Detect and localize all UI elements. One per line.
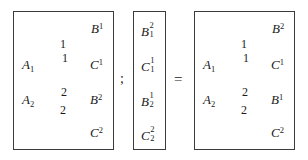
symbol-entry-4: C22 bbox=[141, 129, 150, 142]
node-c2-right-base: C bbox=[271, 125, 280, 140]
figure-canvas: A1 B1 C1 A2 B2 C2 1 1 2 2 ; B21 C11 B12 … bbox=[0, 0, 308, 160]
edge-label-a1-c1-left: 1 bbox=[62, 52, 68, 64]
node-c2-left-base: C bbox=[90, 125, 99, 140]
edge-label-a1-b1-left: 1 bbox=[60, 38, 66, 50]
node-b1-left-base: B bbox=[91, 21, 99, 36]
node-a1-left-sub: 1 bbox=[30, 64, 34, 74]
node-b2-right-base: B bbox=[272, 21, 280, 36]
node-b2-right: B2 bbox=[272, 22, 284, 35]
node-c2-right: C2 bbox=[271, 126, 284, 139]
symbol-entry-2: C11 bbox=[141, 60, 150, 73]
node-a2-right: A2 bbox=[203, 93, 215, 106]
symbol-entry-1: B21 bbox=[141, 25, 149, 38]
node-a2-left-base: A bbox=[22, 92, 30, 107]
separator-semicolon: ; bbox=[120, 72, 124, 86]
node-c1-right-base: C bbox=[271, 57, 280, 72]
node-c2-left: C2 bbox=[90, 126, 103, 139]
node-c1-left: C1 bbox=[90, 58, 103, 71]
symbol-entry-3-base: B bbox=[141, 94, 149, 109]
edge-label-a1-b2-right: 1 bbox=[241, 38, 247, 50]
symbol-entry-4-base: C bbox=[141, 128, 150, 143]
node-a2-right-sub: 2 bbox=[211, 99, 215, 109]
node-c1-right: C1 bbox=[271, 58, 284, 71]
node-b2-right-sup: 2 bbox=[280, 21, 284, 31]
node-a1-right: A1 bbox=[203, 58, 215, 71]
node-c1-left-sup: 1 bbox=[99, 57, 103, 67]
symbol-entry-2-base: C bbox=[141, 59, 150, 74]
node-c1-right-sup: 1 bbox=[280, 57, 284, 67]
symbol-entry-1-base: B bbox=[141, 24, 149, 39]
node-a1-right-sub: 1 bbox=[211, 64, 215, 74]
symbol-entry-3: B12 bbox=[141, 95, 149, 108]
node-b2-left: B2 bbox=[90, 93, 102, 106]
node-c2-right-sup: 2 bbox=[280, 125, 284, 135]
node-b2-left-base: B bbox=[90, 92, 98, 107]
edge-label-a2-b2-left: 2 bbox=[61, 86, 67, 98]
node-c2-left-sup: 2 bbox=[99, 125, 103, 135]
node-a1-left: A1 bbox=[22, 58, 34, 71]
node-a1-right-base: A bbox=[203, 57, 211, 72]
node-a2-left-sub: 2 bbox=[30, 99, 34, 109]
node-a2-left: A2 bbox=[22, 93, 34, 106]
edge-label-a2-c2-right: 2 bbox=[241, 104, 247, 116]
node-a1-left-base: A bbox=[22, 57, 30, 72]
node-b1-left: B1 bbox=[91, 22, 103, 35]
node-b1-right: B1 bbox=[271, 93, 283, 106]
node-c1-left-base: C bbox=[90, 57, 99, 72]
node-b1-right-sup: 1 bbox=[279, 92, 283, 102]
node-b1-left-sup: 1 bbox=[99, 21, 103, 31]
node-b1-right-base: B bbox=[271, 92, 279, 107]
node-b2-left-sup: 2 bbox=[98, 92, 102, 102]
edge-label-a1-c1-right: 1 bbox=[243, 52, 249, 64]
edge-label-a2-c2-left: 2 bbox=[60, 104, 66, 116]
edge-label-a2-b1-right: 2 bbox=[242, 86, 248, 98]
separator-equals: = bbox=[174, 72, 182, 87]
node-a2-right-base: A bbox=[203, 92, 211, 107]
